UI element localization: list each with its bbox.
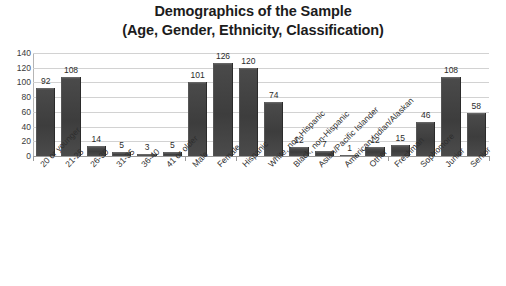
chart-title: Demographics of the Sample (Age, Gender,…	[0, 2, 506, 40]
bar-value-label: 108	[57, 66, 85, 75]
category-group-tick	[185, 156, 186, 161]
category-group-tick	[236, 156, 237, 161]
y-axis: 140120100806040200	[0, 48, 31, 163]
y-axis-tick-label: 100	[3, 78, 31, 87]
bar	[213, 63, 232, 156]
bar-value-label: 101	[184, 71, 212, 80]
bar-value-label: 58	[462, 102, 490, 111]
bar-value-label: 120	[234, 57, 262, 66]
bar-value-label: 15	[386, 134, 414, 143]
chart-title-line-1: Demographics of the Sample	[154, 3, 351, 19]
bar-value-label: 126	[209, 52, 237, 61]
chart-title-line-2: (Age, Gender, Ethnicity, Classification)	[0, 21, 506, 40]
bar-value-label: 14	[82, 135, 110, 144]
category-group-tick	[33, 156, 34, 161]
bar	[239, 68, 258, 156]
bar-value-label: 74	[260, 91, 288, 100]
y-axis-tick-label: 140	[3, 49, 31, 58]
category-group-tick	[388, 156, 389, 161]
category-group-tick	[489, 156, 490, 161]
y-axis-tick-label: 60	[3, 108, 31, 117]
y-axis-tick-label: 80	[3, 93, 31, 102]
y-axis-tick-label: 40	[3, 123, 31, 132]
bar-value-label: 92	[32, 77, 60, 86]
x-axis-labels: 20 or younger21-2526-3031-3536-4041 or o…	[0, 156, 506, 286]
bar-value-label: 46	[412, 111, 440, 120]
gridline	[33, 53, 489, 54]
bar-value-label: 108	[437, 66, 465, 75]
demographics-bar-chart: Demographics of the Sample (Age, Gender,…	[0, 0, 506, 286]
gridline	[33, 82, 489, 83]
y-axis-tick-label: 120	[3, 64, 31, 73]
gridline	[33, 68, 489, 69]
y-axis-tick-label: 20	[3, 137, 31, 146]
